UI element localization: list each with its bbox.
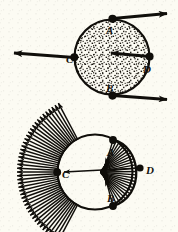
figure-canvas: A C D B A C D B [0,0,178,232]
paper-grain [0,0,178,232]
